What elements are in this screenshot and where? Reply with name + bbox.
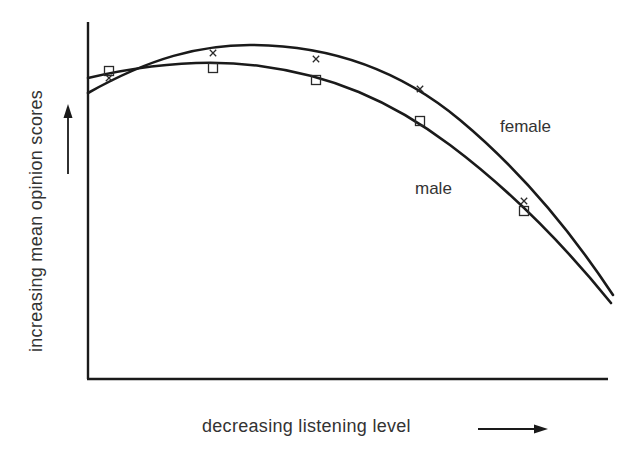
arrow-right-icon — [478, 425, 548, 434]
x-marker — [210, 50, 216, 56]
x-marker — [521, 198, 527, 204]
arrow-up-icon — [64, 104, 73, 174]
square-marker — [209, 64, 218, 73]
male-label: male — [415, 179, 452, 198]
x-axis-label: decreasing listening level — [202, 416, 411, 436]
male-markers — [105, 64, 529, 216]
female-markers — [106, 50, 527, 204]
female-curve — [88, 45, 613, 295]
male-curve — [88, 63, 611, 303]
chart: female male increasing mean opinion scor… — [0, 0, 642, 452]
y-axis-label: increasing mean opinion scores — [26, 90, 46, 352]
x-marker — [313, 56, 319, 62]
female-label: female — [500, 117, 551, 136]
